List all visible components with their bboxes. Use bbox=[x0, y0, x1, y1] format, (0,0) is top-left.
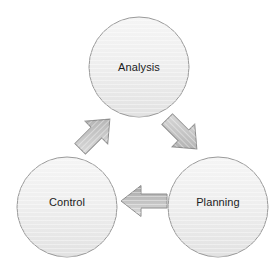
diagram-canvas: Analysis Control Planning bbox=[0, 0, 277, 268]
arrow-texture bbox=[121, 186, 167, 217]
node-planning[interactable]: Planning bbox=[168, 157, 268, 257]
node-planning-label: Planning bbox=[196, 196, 240, 208]
arrow-analysis-to-planning bbox=[156, 108, 208, 160]
cycle-diagram: Analysis Control Planning bbox=[0, 0, 277, 268]
node-analysis[interactable]: Analysis bbox=[89, 17, 189, 117]
arrow-texture bbox=[156, 108, 208, 160]
arrow-control-to-analysis bbox=[69, 108, 121, 160]
node-control-label: Control bbox=[49, 196, 85, 208]
node-control[interactable]: Control bbox=[17, 157, 117, 257]
arrow-texture bbox=[69, 108, 121, 160]
arrow-planning-to-control bbox=[121, 186, 167, 217]
node-analysis-label: Analysis bbox=[118, 61, 160, 73]
